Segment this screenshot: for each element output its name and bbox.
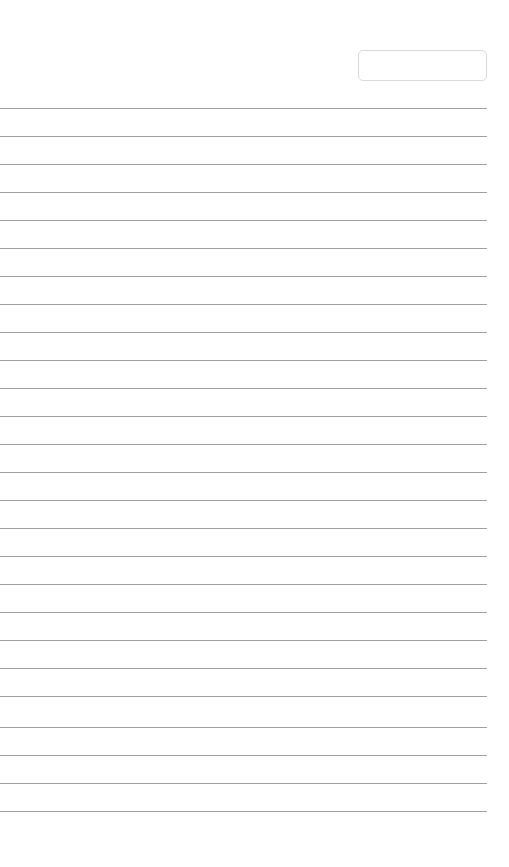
writing-area[interactable] (0, 100, 487, 820)
lined-note-page (0, 0, 509, 867)
